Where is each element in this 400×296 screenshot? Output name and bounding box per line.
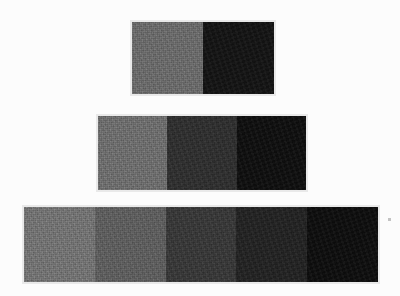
middle-row (96, 114, 308, 192)
middle-row-cell-2 (237, 116, 306, 190)
top-row-cell-1 (203, 22, 274, 94)
middle-row-cell-0 (98, 116, 167, 190)
bottom-row-cell-2 (166, 207, 237, 282)
bottom-row-cell-1 (95, 207, 166, 282)
bottom-row-cell-4 (307, 207, 378, 282)
top-row-cell-0 (132, 22, 203, 94)
bottom-row-cell-0 (24, 207, 95, 282)
image-canvas (0, 0, 400, 296)
bottom-row-cell-3 (236, 207, 307, 282)
top-row (130, 20, 276, 96)
margin-speck (388, 218, 391, 221)
middle-row-cell-1 (167, 116, 236, 190)
bottom-row (22, 205, 380, 284)
